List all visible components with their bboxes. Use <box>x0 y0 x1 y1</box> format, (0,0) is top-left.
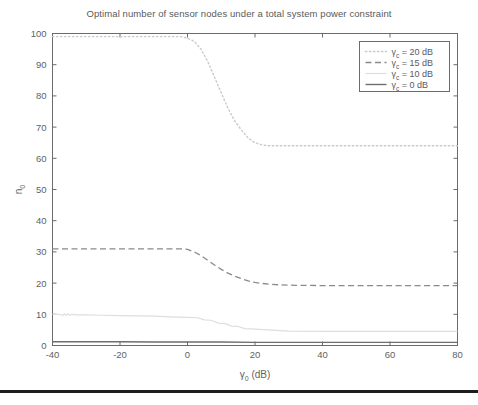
y-tick-label: 40 <box>36 215 47 226</box>
x-tick-label: 40 <box>317 349 328 360</box>
figure-canvas: Optimal number of sensor nodes under a t… <box>0 0 478 405</box>
y-tick-label: 80 <box>36 90 47 101</box>
y-tick-label: 60 <box>36 153 47 164</box>
y-axis-label: n0 <box>13 185 26 195</box>
y-tick-label: 90 <box>36 59 47 70</box>
y-tick-label: 50 <box>36 184 47 195</box>
chart-plot-area: -40-200204060800102030405060708090100γ0 … <box>0 0 478 405</box>
y-tick-label: 10 <box>36 309 47 320</box>
y-tick-label: 30 <box>36 246 47 257</box>
y-tick-label: 20 <box>36 278 47 289</box>
x-tick-label: 60 <box>385 349 396 360</box>
x-tick-label: 20 <box>250 349 261 360</box>
y-tick-label: 0 <box>41 340 46 351</box>
x-tick-label: 80 <box>452 349 463 360</box>
page-bottom-rule <box>0 390 478 393</box>
series-line-3 <box>53 342 458 343</box>
x-axis-label: γ0 (dB) <box>240 369 271 382</box>
y-tick-label: 70 <box>36 122 47 133</box>
x-tick-label: 0 <box>185 349 190 360</box>
series-line-1 <box>53 249 458 286</box>
y-tick-label: 100 <box>31 28 47 39</box>
x-tick-label: -40 <box>46 349 60 360</box>
x-tick-label: -20 <box>113 349 127 360</box>
series-line-2 <box>53 314 458 332</box>
